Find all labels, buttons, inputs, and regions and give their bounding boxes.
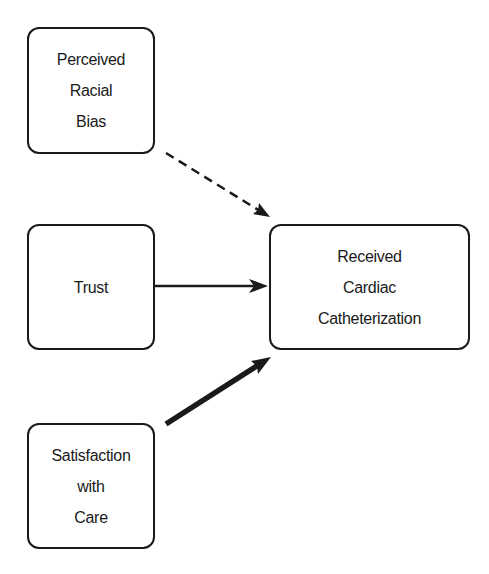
edge-satis-to-cath [166,364,260,424]
node-label-line: Perceived [57,44,125,75]
node-label-line: Trust [74,272,108,303]
node-label-line: Racial [70,75,113,106]
node-label-line: Satisfaction [51,440,130,471]
node-label-line: Cardiac [343,272,396,303]
node-label-line: Bias [76,106,106,137]
node-label-line: Received [337,241,401,272]
node-trust: Trust [27,224,155,350]
node-received-cardiac-catheterization: Received Cardiac Catheterization [269,224,470,350]
edge-bias-to-cath [166,153,268,216]
node-label-line: with [77,471,104,502]
node-perceived-racial-bias: Perceived Racial Bias [27,27,155,154]
node-satisfaction-with-care: Satisfaction with Care [27,423,155,549]
node-label-line: Care [74,502,107,533]
node-label-line: Catheterization [318,303,421,334]
arrowhead-bias [253,203,270,217]
